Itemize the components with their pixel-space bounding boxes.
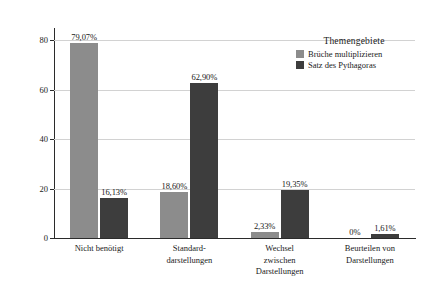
legend-item[interactable]: Brüche multiplizieren: [296, 49, 420, 59]
bar-value-label: 0%: [349, 227, 360, 237]
legend-label: Satz des Pythagoras: [308, 60, 376, 70]
y-tick-mark: [50, 139, 54, 140]
x-category-label: Standard- darstellungen: [166, 243, 212, 266]
y-tick-mark: [50, 40, 54, 41]
bar: [70, 43, 98, 238]
y-tick-label: 20: [40, 184, 49, 194]
bar-value-label: 2,33%: [254, 221, 275, 231]
x-axis-line: [54, 238, 416, 239]
y-tick-label: 60: [40, 85, 49, 95]
legend-swatch-icon: [296, 50, 304, 58]
y-tick-mark: [50, 189, 54, 190]
y-tick-label: 0: [44, 233, 48, 243]
legend-swatch-icon: [296, 61, 304, 69]
bar: [190, 83, 218, 238]
legend-title: Themengebiete: [288, 36, 420, 46]
legend-item[interactable]: Satz des Pythagoras: [296, 60, 420, 70]
bar-value-label: 16,13%: [101, 187, 127, 197]
bar-value-label: 1,61%: [374, 223, 395, 233]
x-category-label: Nicht benötigt: [75, 243, 124, 255]
bar-value-label: 79,07%: [71, 32, 97, 42]
bar-value-label: 19,35%: [282, 179, 308, 189]
bar-value-label: 18,60%: [162, 181, 188, 191]
bar: [251, 232, 279, 238]
bar: [100, 198, 128, 238]
y-tick-mark: [50, 90, 54, 91]
bar-chart: Anteil in Prozent 020406080 79,07%16,13%…: [0, 0, 427, 307]
bar: [281, 190, 309, 238]
y-tick-label: 80: [40, 35, 49, 45]
x-category-label: Wechsel zwischen Darstellungen: [256, 243, 304, 278]
legend-items: Brüche multiplizierenSatz des Pythagoras: [288, 49, 420, 70]
y-tick-mark: [50, 238, 54, 239]
x-category-label: Beurteilen von Darstellungen: [345, 243, 395, 266]
bar: [371, 234, 399, 238]
legend-label: Brüche multiplizieren: [308, 49, 382, 59]
gridline: [54, 139, 415, 140]
gridline: [54, 90, 415, 91]
bar-value-label: 62,90%: [192, 72, 218, 82]
bar: [160, 192, 188, 238]
y-tick-label: 40: [40, 134, 49, 144]
legend: Themengebiete Brüche multiplizierenSatz …: [288, 36, 420, 71]
